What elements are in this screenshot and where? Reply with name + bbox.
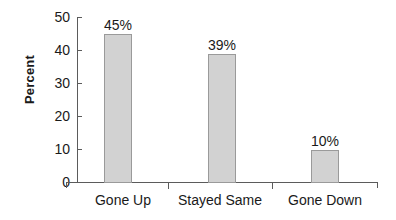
x-axis-category-label: Stayed Same	[172, 192, 268, 208]
bar-stayed-same	[208, 54, 236, 183]
y-tick-label: 0	[36, 175, 70, 189]
x-axis-category-label: Gone Down	[277, 192, 373, 208]
y-axis-line	[77, 17, 78, 183]
x-axis-category-divider	[168, 183, 169, 189]
x-axis-category-divider	[272, 183, 273, 189]
bar-gone-down	[311, 150, 339, 183]
y-tick-label: 20	[36, 109, 70, 123]
y-axis-title: Percent	[22, 40, 37, 120]
bar-value-label: 39%	[197, 38, 247, 52]
y-tick-label: 30	[36, 76, 70, 90]
bar-value-label: 10%	[300, 134, 350, 148]
x-axis-start-tick	[66, 182, 67, 188]
bar-value-label: 45%	[93, 18, 143, 32]
x-axis-category-label: Gone Up	[78, 192, 168, 208]
y-tick-label: 10	[36, 142, 70, 156]
y-tick-label: 50	[36, 10, 70, 24]
y-tick-label: 40	[36, 43, 70, 57]
bar-chart: Percent 50 40 30 20 10 0 45% 39% 10% Gon…	[0, 0, 396, 220]
y-axis-tick-labels: 50 40 30 20 10 0	[36, 0, 70, 220]
x-axis-end-tick	[377, 182, 378, 188]
bar-gone-up	[104, 34, 132, 183]
